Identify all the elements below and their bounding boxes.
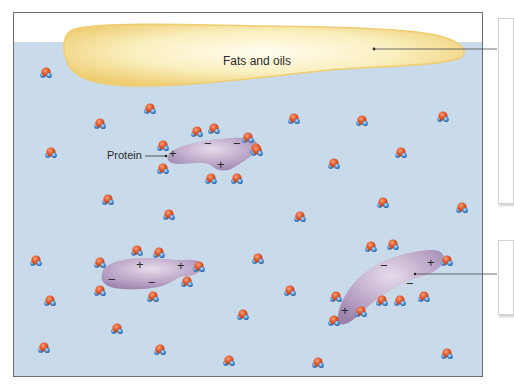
charge-minus: − [380, 258, 388, 273]
charge-minus: − [204, 136, 212, 151]
water-region [14, 42, 482, 376]
protein-callout-dot [414, 273, 417, 276]
charge-plus: + [341, 303, 349, 318]
fats-and-oils-label: Fats and oils [223, 54, 291, 68]
charge-plus: + [136, 257, 144, 272]
fats-leader-dot [373, 48, 376, 51]
charge-plus: + [427, 255, 435, 270]
protein-leader-dot [165, 155, 168, 158]
charge-minus: − [233, 136, 241, 151]
charge-minus: − [406, 276, 414, 291]
charge-plus: + [177, 258, 185, 273]
charge-minus: − [108, 272, 116, 287]
charge-minus: − [148, 275, 156, 290]
protein-callout-box [498, 240, 514, 315]
protein-label: Protein [107, 149, 142, 161]
charge-plus: + [169, 146, 177, 161]
fats-callout-box [498, 18, 514, 204]
charge-plus: + [217, 157, 225, 172]
